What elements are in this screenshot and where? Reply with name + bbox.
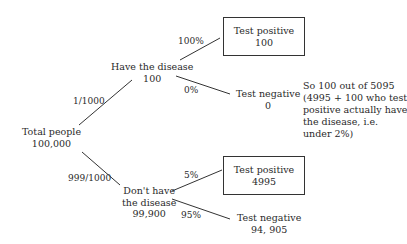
explanation-note: So 100 out of 5095 (4995 + 100 who test … [303, 80, 407, 140]
outcome-no-positive-value: 4995 [224, 176, 304, 188]
prob-no-disease: 999/1000 [68, 173, 111, 184]
node-no-disease-value: 99,900 [122, 208, 176, 220]
outcome-have-positive-label: Test positive [224, 25, 304, 37]
root-label: Total people [22, 126, 81, 138]
outcome-have-negative-label: Test negative [236, 88, 300, 100]
root-node: Total people 100,000 [22, 126, 81, 149]
node-no-disease: Don't have the disease 99,900 [122, 185, 176, 220]
note-line: So 100 out of 5095 [303, 80, 407, 92]
prob-have-disease: 1/1000 [73, 96, 105, 107]
root-value: 100,000 [22, 138, 81, 150]
prob-have-negative: 0% [184, 85, 198, 96]
outcome-no-positive-label: Test positive [224, 164, 304, 176]
outcome-no-negative-label: Test negative [237, 212, 301, 224]
outcome-no-negative: Test negative 94, 905 [237, 212, 301, 235]
outcome-have-negative-value: 0 [236, 100, 300, 112]
node-no-disease-label-1: Don't have [122, 185, 176, 197]
outcome-box-no-positive: Test positive 4995 [223, 156, 305, 195]
outcome-have-negative: Test negative 0 [236, 88, 300, 111]
node-have-disease-label: Have the disease [111, 61, 193, 73]
outcome-no-negative-value: 94, 905 [237, 224, 301, 236]
note-line: positive actually have [303, 104, 407, 116]
outcome-box-have-positive: Test positive 100 [223, 17, 305, 56]
node-no-disease-label-2: the disease [122, 197, 176, 209]
outcome-have-positive-value: 100 [224, 37, 304, 49]
prob-have-positive: 100% [178, 36, 204, 47]
note-line: under 2%) [303, 128, 407, 140]
node-have-disease-value: 100 [111, 73, 193, 85]
node-have-disease: Have the disease 100 [111, 61, 193, 84]
note-line: (4995 + 100 who test [303, 92, 407, 104]
probability-tree-diagram: Total people 100,000 1/1000 999/1000 Hav… [0, 0, 407, 244]
note-line: the disease, i.e. [303, 116, 407, 128]
prob-no-positive: 5% [184, 170, 198, 181]
prob-no-negative: 95% [181, 210, 201, 221]
